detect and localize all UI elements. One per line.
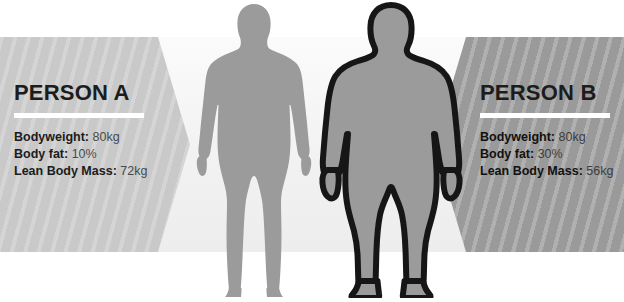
person-b-heading: PERSON B [480,82,624,104]
lean-body-silhouette-icon [192,4,316,297]
person-b-stat-leanbodymass: Lean Body Mass: 56kg [480,163,624,180]
person-a-panel: PERSON A Bodyweight: 80kg Body fat: 10% … [0,37,190,252]
person-a-leanbodymass-label: Lean Body Mass: [14,164,117,178]
person-a-divider [14,113,144,118]
person-a-bodyfat-label: Body fat: [14,147,68,161]
person-a-stat-leanbodymass: Lean Body Mass: 72kg [14,163,190,180]
person-a-bodyweight-label: Bodyweight: [14,130,89,144]
person-b-bodyfat-value: 30% [538,147,563,161]
person-b-stat-bodyfat: Body fat: 30% [480,146,624,163]
person-a-bodyfat-value: 10% [72,147,97,161]
infographic-canvas: PERSON A Bodyweight: 80kg Body fat: 10% … [0,0,624,302]
person-b-divider [480,113,610,118]
person-a-heading: PERSON A [14,82,190,104]
person-a-stat-bodyweight: Bodyweight: 80kg [14,129,190,146]
person-b-bodyfat-label: Body fat: [480,147,534,161]
person-a-stat-bodyfat: Body fat: 10% [14,146,190,163]
person-a-bodyweight-value: 80kg [92,130,119,144]
person-b-bodyweight-label: Bodyweight: [480,130,555,144]
person-a-leanbodymass-value: 72kg [120,164,147,178]
obese-body-silhouette-icon [318,2,464,298]
person-b-leanbodymass-value: 56kg [586,164,613,178]
person-b-bodyweight-value: 80kg [558,130,585,144]
person-b-leanbodymass-label: Lean Body Mass: [480,164,583,178]
person-b-stat-bodyweight: Bodyweight: 80kg [480,129,624,146]
